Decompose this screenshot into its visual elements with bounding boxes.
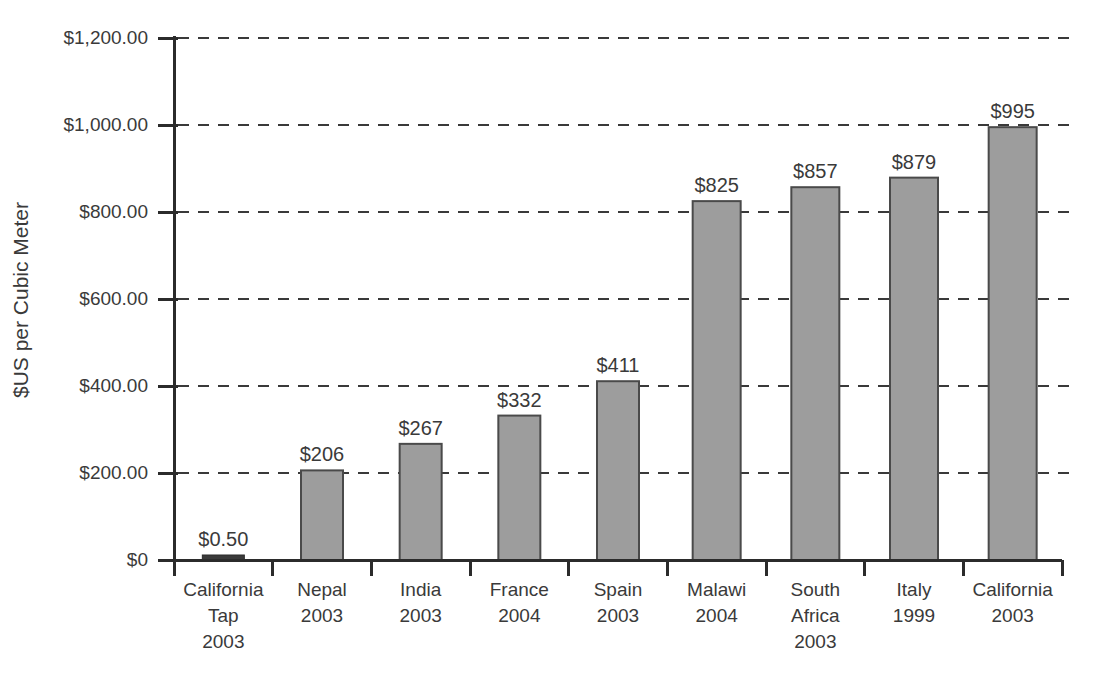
bar-value-label: $411: [596, 354, 639, 376]
x-category-label-line: California: [973, 579, 1054, 600]
bar-value-label: $857: [793, 160, 838, 182]
bar: [498, 416, 540, 560]
x-category-label-line: 2003: [597, 605, 639, 626]
x-category-label-line: 2003: [202, 631, 244, 652]
x-category-label-line: France: [490, 579, 549, 600]
bar: [301, 470, 343, 560]
x-category-label-line: Italy: [897, 579, 932, 600]
y-tick-label: $200.00: [79, 462, 148, 483]
y-tick-label: $400.00: [79, 375, 148, 396]
bar: [400, 444, 442, 560]
y-tick-label: $1,000.00: [63, 114, 148, 135]
x-category-label-line: 2004: [696, 605, 739, 626]
bar-chart: $1,200.00$1,000.00$800.00$600.00$400.00$…: [0, 0, 1097, 674]
x-category-label-line: Tap: [208, 605, 239, 626]
bar-value-label: $267: [398, 417, 443, 439]
x-category-label-line: 2003: [301, 605, 343, 626]
chart-canvas: $1,200.00$1,000.00$800.00$600.00$400.00$…: [0, 0, 1097, 674]
bar-value-label: $206: [300, 443, 345, 465]
y-tick-label: $0: [127, 549, 148, 570]
x-category-label-line: India: [400, 579, 442, 600]
x-category-label-line: 2003: [992, 605, 1034, 626]
y-tick-label: $600.00: [79, 288, 148, 309]
x-category-label-line: 2003: [400, 605, 442, 626]
y-tick-label: $800.00: [79, 201, 148, 222]
bar-value-label: $879: [892, 151, 937, 173]
x-category-label-line: Africa: [791, 605, 840, 626]
bar-value-label: $825: [694, 174, 739, 196]
bar: [989, 127, 1037, 560]
x-category-label-line: Spain: [594, 579, 643, 600]
bar: [791, 187, 839, 560]
x-category-label-line: 2004: [498, 605, 541, 626]
bar-value-label: $995: [990, 100, 1035, 122]
bar: [597, 381, 639, 560]
x-category-label-line: Malawi: [687, 579, 746, 600]
bar-value-label: $332: [497, 389, 542, 411]
y-axis-title: $US per Cubic Meter: [9, 202, 32, 398]
x-category-label-line: Nepal: [297, 579, 347, 600]
x-category-label-line: 1999: [893, 605, 935, 626]
bar-value-label: $0.50: [198, 528, 248, 550]
x-category-label-line: South: [791, 579, 841, 600]
y-tick-label: $1,200.00: [63, 27, 148, 48]
x-category-label-line: 2003: [794, 631, 836, 652]
bar: [693, 201, 741, 560]
x-category-label-line: California: [183, 579, 264, 600]
bar: [890, 178, 938, 560]
